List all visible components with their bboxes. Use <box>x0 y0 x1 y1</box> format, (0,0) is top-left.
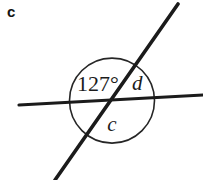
angle-label-d: d <box>132 71 143 95</box>
figure-canvas: c 127° d c <box>0 0 203 180</box>
geometry-diagram: 127° d c <box>0 0 203 180</box>
angle-label-c: c <box>107 112 117 136</box>
angle-measure-127-label: 127° <box>77 71 119 96</box>
